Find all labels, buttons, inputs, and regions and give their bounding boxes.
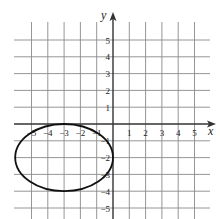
x-tick-label: −4 (43, 128, 53, 138)
y-tick-label: 1 (106, 103, 111, 113)
x-tick-label: 4 (176, 128, 181, 138)
x-tick-label: −2 (76, 128, 86, 138)
y-tick-label: 2 (106, 86, 111, 96)
x-tick-label: 2 (143, 128, 148, 138)
grid-lines (14, 22, 210, 219)
y-tick-label: −2 (100, 153, 110, 163)
y-tick-label: 3 (106, 69, 111, 79)
x-tick-label: 1 (127, 128, 132, 138)
y-tick-label: −4 (100, 187, 110, 197)
x-axis-label: x (207, 124, 214, 138)
y-tick-label: 4 (106, 52, 111, 62)
x-tick-label: 3 (160, 128, 165, 138)
y-tick-label: 5 (106, 36, 111, 46)
y-axis-label: y (100, 8, 107, 22)
y-tick-label: −5 (100, 204, 110, 214)
coordinate-plane: −5−4−3−2−11234554321−1−2−3−4−5 x y (0, 0, 220, 219)
x-tick-label: −3 (59, 128, 69, 138)
x-tick-label: 5 (192, 128, 197, 138)
